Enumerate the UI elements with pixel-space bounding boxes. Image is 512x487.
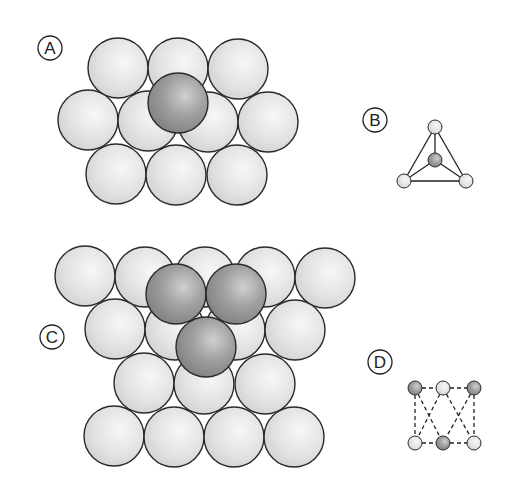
label-c: C bbox=[40, 325, 64, 349]
atom-light bbox=[397, 174, 411, 188]
octahedron-edges bbox=[415, 388, 474, 443]
atom-dark bbox=[206, 264, 266, 324]
label-b-text: B bbox=[369, 111, 380, 130]
atom-light bbox=[408, 436, 422, 450]
octahedron-atoms bbox=[408, 381, 481, 450]
atom-light bbox=[146, 145, 206, 205]
atom-light bbox=[88, 38, 148, 98]
tetrahedron-atoms bbox=[397, 120, 473, 188]
atom-light bbox=[467, 436, 481, 450]
layer-atoms-c bbox=[55, 246, 355, 467]
atom-light bbox=[58, 90, 118, 150]
layer-atoms-a bbox=[58, 38, 298, 205]
atom-light bbox=[295, 248, 355, 308]
atom-dark bbox=[467, 381, 481, 395]
atom-light bbox=[55, 246, 115, 306]
atom-light bbox=[84, 406, 144, 466]
label-c-text: C bbox=[46, 328, 58, 347]
atom-light bbox=[207, 145, 267, 205]
atom-dark bbox=[176, 317, 236, 377]
panel-c: C bbox=[40, 246, 355, 467]
panel-b: B bbox=[363, 108, 473, 188]
atom-light bbox=[114, 353, 174, 413]
atom-dark bbox=[428, 153, 442, 167]
atom-light bbox=[204, 407, 264, 467]
atom-light bbox=[208, 39, 268, 99]
panel-a: A bbox=[38, 36, 298, 205]
label-d-text: D bbox=[374, 353, 386, 372]
atom-dark bbox=[148, 73, 208, 133]
atom-light bbox=[238, 92, 298, 152]
panel-d: D bbox=[368, 350, 481, 450]
atom-dark bbox=[436, 436, 450, 450]
atom-dark bbox=[146, 264, 206, 324]
atom-light bbox=[265, 300, 325, 360]
atom-light bbox=[144, 407, 204, 467]
label-a: A bbox=[38, 36, 62, 60]
label-b: B bbox=[363, 108, 387, 132]
close-packing-diagram: A B bbox=[0, 0, 512, 487]
atom-light bbox=[85, 299, 145, 359]
atom-dark bbox=[408, 381, 422, 395]
label-d: D bbox=[368, 350, 392, 374]
atom-light bbox=[264, 407, 324, 467]
atom-light bbox=[459, 174, 473, 188]
atom-light bbox=[436, 381, 450, 395]
label-a-text: A bbox=[44, 39, 56, 58]
atom-light bbox=[428, 120, 442, 134]
atom-light bbox=[86, 144, 146, 204]
atom-light bbox=[235, 354, 295, 414]
